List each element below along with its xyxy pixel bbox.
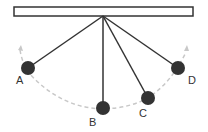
pendulum-diagram: A B C D — [0, 0, 208, 132]
label-d: D — [188, 74, 196, 86]
string-a — [28, 16, 103, 68]
arrow-left-icon — [18, 45, 23, 51]
label-b: B — [89, 116, 96, 128]
arrow-right-icon — [184, 45, 189, 51]
label-a: A — [16, 74, 24, 86]
string-d — [103, 16, 178, 68]
bob-d — [171, 61, 185, 75]
label-c: C — [139, 107, 147, 119]
support-bar — [14, 7, 193, 16]
bob-b — [96, 101, 110, 115]
pendulum-svg: A B C D — [0, 0, 208, 132]
string-c — [103, 16, 148, 98]
bob-c — [141, 91, 155, 105]
bob-a — [21, 61, 35, 75]
